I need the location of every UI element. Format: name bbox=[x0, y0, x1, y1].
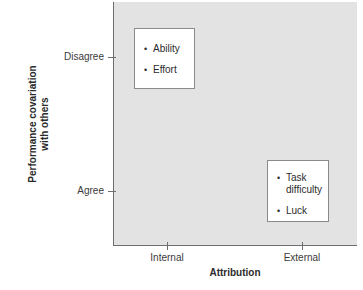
callout-box-internal-disagree: Ability Effort bbox=[134, 28, 195, 89]
x-axis-label-internal: Internal bbox=[127, 252, 207, 263]
y-axis-label-agree: Agree bbox=[77, 185, 104, 196]
x-axis-label-external: External bbox=[262, 252, 342, 263]
y-axis-tick-disagree bbox=[108, 57, 116, 58]
y-axis-title: Performance covariation with others bbox=[27, 34, 51, 214]
y-axis-tick-agree bbox=[108, 191, 116, 192]
y-axis-title-line2: with others bbox=[39, 34, 51, 214]
y-axis-label-disagree: Disagree bbox=[64, 51, 104, 62]
callout-box-external-agree: Task difficulty Luck bbox=[267, 160, 329, 222]
callout-item-effort: Effort bbox=[144, 64, 194, 76]
callout-item-task-difficulty: Task difficulty bbox=[277, 172, 328, 196]
x-axis-tick-internal bbox=[167, 242, 168, 250]
attribution-covariation-chart: Disagree Agree Internal External Attribu… bbox=[0, 0, 363, 290]
x-axis-line bbox=[113, 245, 357, 246]
y-axis-line bbox=[113, 2, 114, 246]
x-axis-title: Attribution bbox=[113, 267, 357, 278]
callout-item-luck: Luck bbox=[277, 205, 328, 217]
callout-item-ability: Ability bbox=[144, 43, 194, 55]
x-axis-tick-external bbox=[302, 242, 303, 250]
y-axis-title-line1: Performance covariation bbox=[27, 34, 39, 214]
